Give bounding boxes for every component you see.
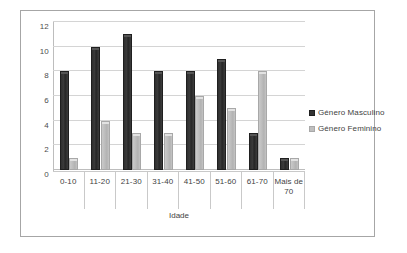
- bar-group: [116, 22, 148, 170]
- bar-feminino: [164, 133, 173, 170]
- bar-masculino: [249, 133, 258, 170]
- bar-group: [148, 22, 180, 170]
- bar-cap: [155, 72, 162, 74]
- bar-cap: [281, 159, 288, 161]
- x-axis-category-cell: 41-50: [179, 172, 211, 209]
- bar-cap: [102, 122, 109, 124]
- bar-feminino: [227, 108, 236, 170]
- bar-cap: [291, 159, 298, 161]
- bar-cap: [124, 35, 131, 37]
- bar-cap: [165, 134, 172, 136]
- bar-masculino: [91, 47, 100, 170]
- bar-group: [274, 22, 306, 170]
- bar-masculino: [123, 34, 132, 170]
- bar-group: [211, 22, 243, 170]
- bar-masculino: [217, 59, 226, 170]
- x-axis-category-cell: 21-30: [116, 172, 148, 209]
- bar-masculino: [280, 158, 289, 170]
- bar-group: [179, 22, 211, 170]
- x-axis-category-cell: 0-10: [53, 172, 85, 209]
- bar-group: [242, 22, 274, 170]
- bar-cap: [250, 134, 257, 136]
- bar-cap: [187, 72, 194, 74]
- x-axis-category-cell: 51-60: [211, 172, 243, 209]
- chart-container: 024681012 0-1011-2021-3031-4041-5051-606…: [20, 10, 375, 237]
- bar-cap: [228, 109, 235, 111]
- legend-swatch-icon-masculino: [309, 110, 315, 116]
- bar-cap: [218, 60, 225, 62]
- bar-feminino: [195, 96, 204, 170]
- legend-label-masculino: Género Masculino: [318, 108, 385, 117]
- plot-area: [53, 22, 305, 170]
- x-axis-category-label: Mais de 70: [274, 177, 305, 197]
- bar-feminino: [290, 158, 299, 170]
- x-axis-category-cell: 11-20: [85, 172, 117, 209]
- x-axis-category-label: 0-10: [60, 177, 76, 187]
- x-axis-category-cell: 61-70: [242, 172, 274, 209]
- bar-cap: [196, 97, 203, 99]
- x-axis-category-band: 0-1011-2021-3031-4041-5051-6061-70Mais d…: [53, 171, 305, 209]
- x-axis-category-cell: Mais de 70: [274, 172, 306, 209]
- x-axis-category-label: 31-40: [152, 177, 173, 187]
- x-axis-category-cell: 31-40: [148, 172, 180, 209]
- bar-feminino: [101, 121, 110, 170]
- bar-masculino: [60, 71, 69, 170]
- x-axis-title: Idade: [53, 211, 305, 220]
- chart-legend: Género Masculino Género Feminino: [309, 108, 373, 140]
- legend-label-feminino: Género Feminino: [318, 124, 381, 133]
- x-axis-category-label: 21-30: [121, 177, 142, 187]
- bar-group: [85, 22, 117, 170]
- bar-cap: [70, 159, 77, 161]
- bar-masculino: [186, 71, 195, 170]
- bar-cap: [61, 72, 68, 74]
- y-axis-tick-labels: 024681012: [21, 22, 49, 170]
- bar-feminino: [258, 71, 267, 170]
- bar-group: [53, 22, 85, 170]
- legend-item-masculino: Género Masculino: [309, 108, 373, 117]
- bar-cap: [92, 48, 99, 50]
- x-axis-category-label: 51-60: [215, 177, 236, 187]
- bar-cap: [259, 72, 266, 74]
- bar-cap: [133, 134, 140, 136]
- bar-feminino: [69, 158, 78, 170]
- legend-item-feminino: Género Feminino: [309, 124, 373, 133]
- x-axis-category-label: 61-70: [247, 177, 268, 187]
- x-axis-category-label: 11-20: [90, 177, 110, 187]
- legend-swatch-icon-feminino: [309, 126, 315, 132]
- x-axis-category-label: 41-50: [184, 177, 205, 187]
- bar-feminino: [132, 133, 141, 170]
- bar-masculino: [154, 71, 163, 170]
